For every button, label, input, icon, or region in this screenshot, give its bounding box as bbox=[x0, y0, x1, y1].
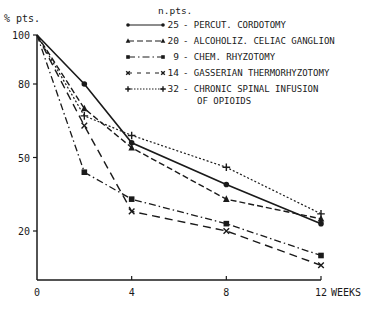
legend-title: n.pts. bbox=[158, 5, 192, 16]
square-marker-icon bbox=[129, 196, 135, 202]
legend-item: 20- ALCOHOLIZ. CELIAC GANGLION bbox=[126, 35, 335, 46]
series-circle bbox=[37, 35, 324, 226]
legend-count: 32 bbox=[168, 83, 179, 94]
y-tick-label: 50 bbox=[18, 153, 30, 164]
chart-legend: n.pts.25- PERCUT. CORDOTOMY20- ALCOHOLIZ… bbox=[125, 5, 335, 106]
legend-item: 32- CHRONIC SPINAL INFUSIONOF OPIOIDS bbox=[125, 83, 318, 106]
x-tick-label: 12 bbox=[315, 287, 327, 298]
legend-count: 25 bbox=[168, 19, 179, 30]
series-line bbox=[37, 35, 321, 214]
series-plus bbox=[37, 35, 325, 218]
legend-label: - ALCOHOLIZ. CELIAC GANGLION bbox=[183, 36, 335, 46]
y-axis-title: % pts. bbox=[4, 13, 40, 24]
legend-item: 9- CHEM. RHYZOTOMY bbox=[126, 51, 275, 62]
x-tick-label: 0 bbox=[34, 287, 40, 298]
x-tick-label: 8 bbox=[223, 287, 229, 298]
square-marker-icon bbox=[82, 169, 88, 175]
x-marker-icon bbox=[82, 123, 88, 129]
legend-label: - GASSERIAN THERMORHYZOTOMY bbox=[183, 68, 330, 78]
plus-marker-icon bbox=[317, 210, 325, 218]
legend-count: 14 bbox=[168, 67, 180, 78]
legend-count: 20 bbox=[168, 35, 180, 46]
circle-marker-icon bbox=[82, 81, 88, 87]
y-tick-label: 80 bbox=[18, 79, 30, 90]
legend-item: 14- GASSERIAN THERMORHYZOTOMY bbox=[126, 67, 330, 78]
series-line bbox=[37, 35, 321, 219]
square-marker-icon bbox=[318, 253, 324, 259]
circle-marker-icon bbox=[224, 182, 230, 188]
plus-marker-icon bbox=[160, 86, 166, 92]
line-chart: % pts.10080502004812WEEKS n.pts.25- PERC… bbox=[0, 0, 370, 309]
plus-marker-icon bbox=[223, 164, 231, 172]
circle-marker-icon bbox=[318, 221, 324, 227]
legend-label: - CHRONIC SPINAL INFUSION bbox=[183, 84, 318, 94]
legend-label: - PERCUT. CORDOTOMY bbox=[183, 20, 287, 30]
circle-marker-icon bbox=[161, 23, 165, 27]
circle-marker-icon bbox=[126, 23, 130, 27]
square-marker-icon bbox=[224, 221, 230, 227]
x-marker-icon bbox=[161, 71, 165, 75]
x-tick-label: 4 bbox=[129, 287, 135, 298]
legend-item: 25- PERCUT. CORDOTOMY bbox=[126, 19, 286, 30]
y-tick-label: 100 bbox=[12, 30, 30, 41]
legend-count: 9 bbox=[173, 51, 179, 62]
x-marker-icon bbox=[224, 228, 230, 234]
legend-label-cont: OF OPIOIDS bbox=[197, 96, 251, 106]
series-triangle bbox=[37, 35, 324, 222]
triangle-marker-icon bbox=[161, 38, 166, 43]
plus-marker-icon bbox=[81, 112, 89, 120]
square-marker-icon bbox=[161, 55, 165, 59]
plus-marker-icon bbox=[128, 132, 136, 140]
legend-label: - CHEM. RHYZOTOMY bbox=[183, 52, 276, 62]
y-tick-label: 20 bbox=[18, 226, 30, 237]
series-line bbox=[37, 35, 321, 224]
x-axis-title: WEEKS bbox=[331, 287, 361, 298]
plus-marker-icon bbox=[125, 86, 131, 92]
square-marker-icon bbox=[126, 55, 130, 59]
